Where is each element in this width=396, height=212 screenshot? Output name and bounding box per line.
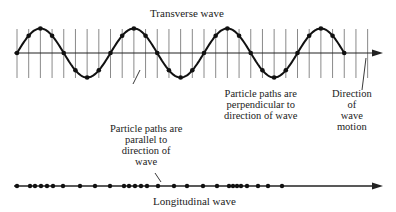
transverse-title: Transverse wave: [150, 8, 224, 19]
direction-label: Direction of wave motion: [332, 88, 372, 132]
longitudinal-title: Longitudinal wave: [153, 196, 236, 207]
pointer-longitudinal: [155, 173, 161, 182]
pointer-direction: [362, 58, 366, 90]
parallel-label: Particle paths are parallel to direction…: [110, 123, 182, 167]
longitudinal-arrowhead: [372, 183, 383, 190]
transverse-arrowhead: [372, 50, 383, 57]
perpendicular-label: Particle paths are perpendicular to dire…: [224, 88, 297, 121]
